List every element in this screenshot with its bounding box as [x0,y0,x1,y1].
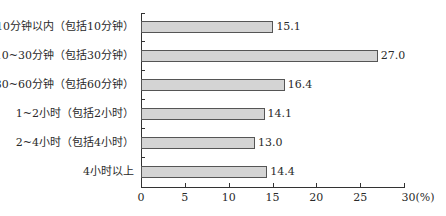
category-label: 30~60分钟（包括60分钟） [0,79,134,91]
category-label: 10~30分钟（包括30分钟） [0,50,134,62]
x-tick-label: 15 [266,192,280,204]
x-tick-label: 10 [222,192,236,204]
category-label: 10分钟以内（包括10分钟） [0,21,134,33]
bar [141,108,265,120]
category-label: 1~2小时（包括2小时） [16,108,134,120]
value-label: 15.1 [276,21,301,33]
bar [141,21,273,33]
y-axis [141,13,142,188]
y-tick [141,128,145,129]
x-tick [185,183,186,187]
y-tick [141,13,145,14]
x-tick [360,183,361,187]
y-tick [141,70,145,71]
x-tick [404,183,405,187]
value-label: 27.0 [381,50,406,62]
x-axis [141,187,405,188]
bar [141,50,378,62]
bar [141,137,255,149]
bar [141,166,267,178]
value-label: 16.4 [288,79,313,91]
x-tick-label: 5 [181,192,188,204]
bar [141,79,285,91]
x-tick-label: 0 [138,192,145,204]
x-tick [273,183,274,187]
category-label: 4小时以上 [83,166,134,178]
y-tick [141,99,145,100]
y-tick [141,41,145,42]
x-tick-label: 25 [353,192,367,204]
x-tick-label: 20 [309,192,323,204]
x-tick [229,183,230,187]
category-label: 2~4小时（包括4小时） [16,137,134,149]
x-tick-label: 30(%) [401,192,434,204]
value-label: 13.0 [258,137,283,149]
x-tick [316,183,317,187]
value-label: 14.4 [270,166,295,178]
value-label: 14.1 [268,108,293,120]
y-tick [141,157,145,158]
bar-chart: 10分钟以内（包括10分钟）15.110~30分钟（包括30分钟）27.030~… [0,0,446,216]
